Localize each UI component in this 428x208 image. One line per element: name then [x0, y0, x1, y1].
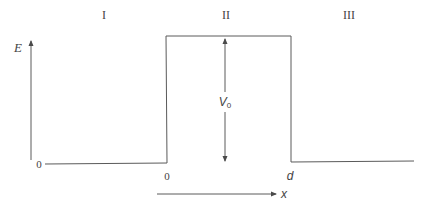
barrier-height-label: V0 — [219, 95, 232, 110]
region-label-3: III — [343, 8, 355, 22]
barrier-right-edge-label: d — [287, 169, 294, 183]
barrier-left-edge-label: 0 — [164, 170, 170, 182]
potential-profile — [45, 36, 414, 164]
potential-barrier-diagram: I II III E 0 0 d V0 x — [0, 0, 428, 208]
position-axis-label: x — [280, 187, 288, 201]
energy-axis-label: E — [13, 40, 22, 55]
region-label-1: I — [102, 8, 106, 22]
barrier-height-label-subscript: 0 — [227, 101, 232, 110]
region-label-2: II — [222, 8, 230, 22]
energy-origin-label: 0 — [36, 158, 42, 170]
